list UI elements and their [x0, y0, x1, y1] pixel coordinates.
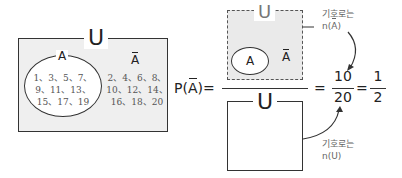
connector-arrows: [0, 0, 402, 178]
top-curved-arrow: [348, 32, 356, 68]
bottom-curved-arrow: [303, 110, 339, 139]
top-arrowhead: [347, 64, 354, 71]
bottom-arrowhead: [336, 106, 343, 112]
